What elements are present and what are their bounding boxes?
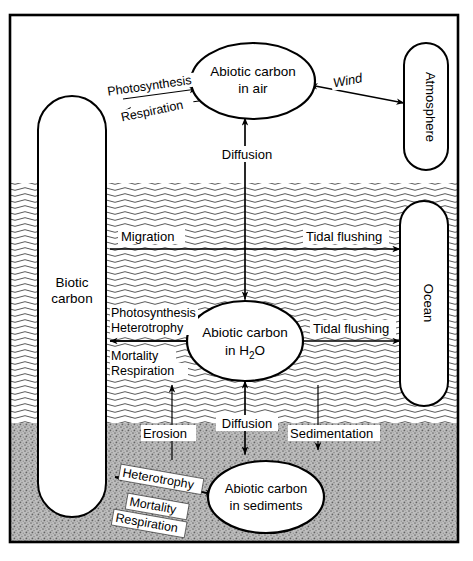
diagram-canvas: Biotic carbon Atmosphere Ocean Abiotic c…: [0, 0, 473, 561]
label-tidal-flushing-mid-text: Tidal flushing: [313, 321, 389, 336]
node-abiotic-sediments-line2: in sediments: [230, 498, 303, 513]
label-respiration-h2o-text: Respiration: [111, 364, 174, 378]
label-sedimentation: Sedimentation: [288, 425, 380, 441]
node-biotic-carbon[interactable]: Biotic carbon: [38, 96, 106, 517]
label-diffusion-sediments: Diffusion: [216, 415, 278, 431]
label-heterotrophy-h2o: Heterotrophy: [110, 320, 198, 335]
label-sedimentation-text: Sedimentation: [290, 426, 373, 441]
node-abiotic-air-line2: in air: [238, 81, 268, 96]
node-abiotic-air-line1: Abiotic carbon: [210, 64, 296, 79]
label-erosion-text: Erosion: [143, 426, 187, 441]
label-photosynthesis-h2o: Photosynthesis: [110, 305, 198, 320]
carbon-cycle-diagram: Biotic carbon Atmosphere Ocean Abiotic c…: [0, 0, 473, 561]
node-abiotic-carbon-air[interactable]: Abiotic carbon in air: [191, 43, 315, 119]
node-abiotic-carbon-sediments[interactable]: Abiotic carbon in sediments: [208, 461, 324, 533]
label-respiration-h2o: Respiration: [110, 363, 188, 378]
node-ocean[interactable]: Ocean: [400, 201, 448, 406]
label-diffusion-air-text: Diffusion: [222, 147, 272, 162]
label-heterotrophy-h2o-text: Heterotrophy: [111, 321, 184, 335]
label-tidal-flushing-top: Tidal flushing: [303, 228, 389, 244]
node-abiotic-carbon-water[interactable]: Abiotic carbon in H2O: [187, 301, 303, 381]
node-ocean-label: Ocean: [421, 284, 436, 322]
label-photosynthesis-h2o-text: Photosynthesis: [111, 306, 196, 320]
node-abiotic-sediments-line1: Abiotic carbon: [225, 481, 307, 496]
label-mortality-h2o-text: Mortality: [111, 349, 159, 363]
label-diffusion-sediments-text: Diffusion: [222, 416, 272, 431]
node-biotic-carbon-line1: Biotic: [55, 275, 88, 290]
label-diffusion-air: Diffusion: [216, 146, 278, 162]
label-migration-text: Migration: [121, 229, 174, 244]
label-erosion: Erosion: [141, 425, 196, 441]
label-tidal-flushing-mid: Tidal flushing: [310, 320, 396, 336]
node-atmosphere-label: Atmosphere: [423, 72, 438, 142]
node-biotic-carbon-line2: carbon: [51, 291, 92, 306]
node-abiotic-water-line2-text: in H: [225, 343, 249, 358]
node-abiotic-water-line1: Abiotic carbon: [202, 325, 288, 340]
label-migration: Migration: [118, 228, 185, 244]
label-mortality-h2o: Mortality: [110, 348, 176, 363]
label-tidal-flushing-top-text: Tidal flushing: [306, 229, 382, 244]
node-atmosphere[interactable]: Atmosphere: [404, 43, 448, 170]
